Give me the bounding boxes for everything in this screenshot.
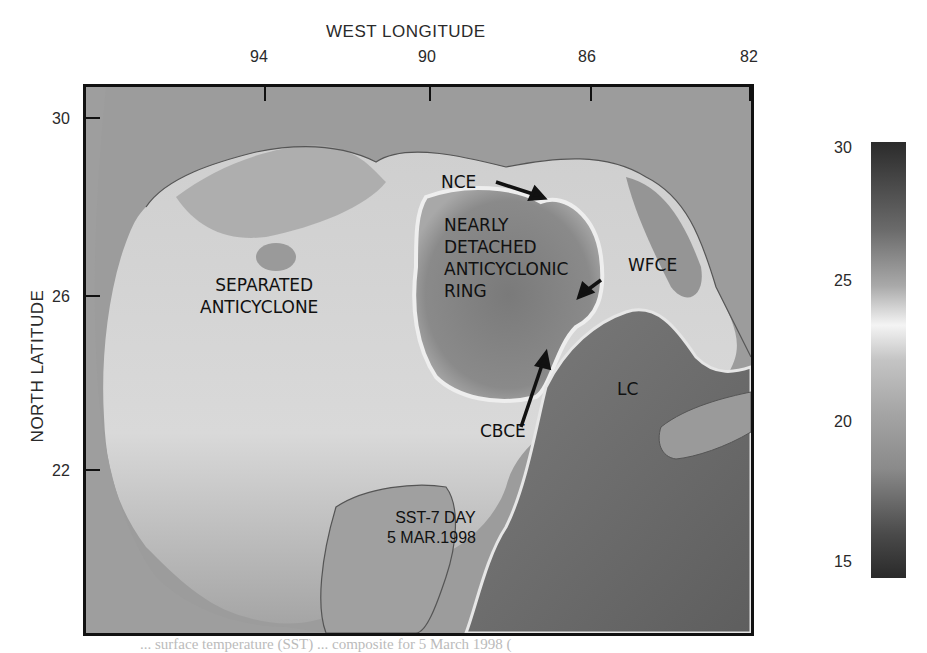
label-line: NEARLY: [444, 214, 569, 236]
gulf-of-mexico-sst-image: [86, 87, 751, 633]
x-tick-82: 82: [740, 48, 758, 66]
x-tick-94: 94: [250, 48, 268, 66]
figure-caption-fragment: ... surface temperature (SST) ... compos…: [140, 636, 512, 653]
sst-date-line: 5 MAR.1998: [387, 528, 476, 548]
separated-anticyclone-core: [256, 243, 296, 271]
y-tick-22: 22: [52, 462, 70, 480]
y-tick-26: 26: [52, 288, 70, 306]
label-lc: LC: [617, 378, 638, 400]
label-sst-title: SST-7 DAY 5 MAR.1998: [395, 508, 476, 548]
temperature-colorbar: [871, 142, 906, 578]
y-tick-30: 30: [52, 110, 70, 128]
label-wfce: WFCE: [628, 254, 677, 276]
label-cbce: CBCE: [480, 420, 526, 442]
colorbar-tick-30: 30: [834, 139, 852, 157]
label-line: RING: [444, 280, 569, 302]
x-axis-title: WEST LONGITUDE: [326, 22, 486, 42]
label-nce: NCE: [441, 171, 476, 193]
label-nearly-detached-ring: NEARLY DETACHED ANTICYCLONIC RING: [444, 214, 569, 302]
x-tick-90: 90: [418, 48, 436, 66]
colorbar-tick-20: 20: [834, 413, 852, 431]
sst-map: [83, 84, 754, 636]
label-line: SEPARATED: [210, 274, 318, 296]
y-axis-title: NORTH LATITUDE: [28, 276, 48, 456]
x-tick-86: 86: [578, 48, 596, 66]
colorbar-tick-25: 25: [834, 272, 852, 290]
label-line: ANTICYCLONE: [200, 296, 318, 318]
sst-title-line: SST-7 DAY: [395, 508, 476, 528]
colorbar-tick-15: 15: [834, 553, 852, 571]
label-line: DETACHED: [444, 236, 569, 258]
label-separated-anticyclone: SEPARATED ANTICYCLONE: [210, 274, 318, 318]
label-line: ANTICYCLONIC: [444, 258, 569, 280]
